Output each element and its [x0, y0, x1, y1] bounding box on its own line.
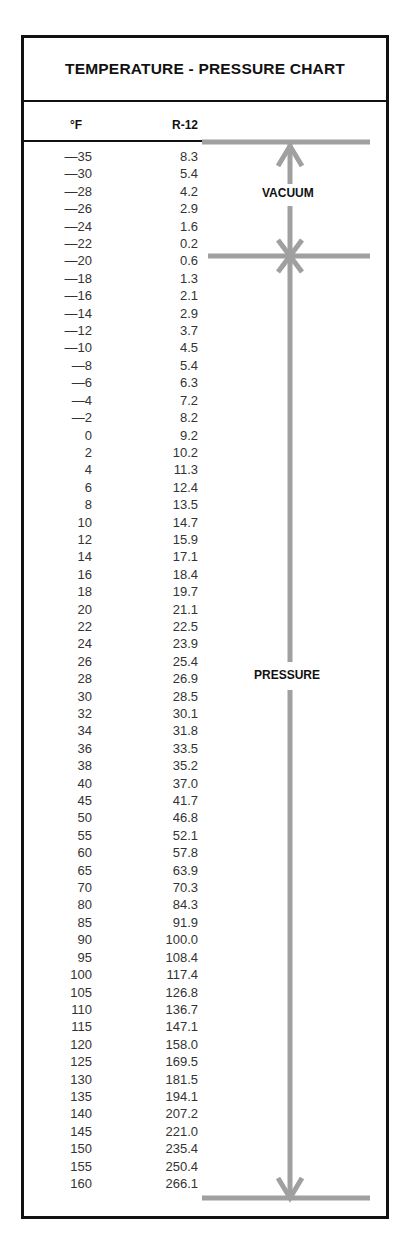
- table-row: 3230.1: [24, 705, 224, 722]
- pressure-cell: 14.7: [173, 514, 198, 531]
- temperature-cell: 90: [78, 931, 92, 948]
- table-row: —262.9: [24, 200, 224, 217]
- temperature-cell: 6: [85, 479, 92, 496]
- pressure-cell: 194.1: [165, 1088, 198, 1105]
- chart-frame: TEMPERATURE - PRESSURE CHART °F R-12 V: [21, 35, 389, 1219]
- table-row: 90100.0: [24, 931, 224, 948]
- table-row: 411.3: [24, 461, 224, 478]
- pressure-cell: 7.2: [180, 392, 198, 409]
- pressure-cell: 33.5: [173, 740, 198, 757]
- temperature-cell: 12: [78, 531, 92, 548]
- pressure-cell: 100.0: [165, 931, 198, 948]
- temperature-cell: 8: [85, 496, 92, 513]
- table-row: 3633.5: [24, 740, 224, 757]
- pressure-cell: 22.5: [173, 618, 198, 635]
- table-row: 8591.9: [24, 914, 224, 931]
- pressure-cell: 108.4: [165, 949, 198, 966]
- temperature-cell: —6: [72, 374, 92, 391]
- table-row: 100117.4: [24, 966, 224, 983]
- pressure-cell: 35.2: [173, 757, 198, 774]
- pressure-cell: 84.3: [173, 896, 198, 913]
- temperature-cell: 4: [85, 461, 92, 478]
- table-row: 3028.5: [24, 688, 224, 705]
- pressure-cell: 126.8: [165, 984, 198, 1001]
- temperature-cell: —26: [65, 200, 92, 217]
- temperature-cell: 10: [78, 514, 92, 531]
- pressure-cell: 30.1: [173, 705, 198, 722]
- pressure-cell: 147.1: [165, 1018, 198, 1035]
- temperature-cell: 80: [78, 896, 92, 913]
- temperature-cell: 140: [70, 1105, 92, 1122]
- pressure-cell: 2.9: [180, 305, 198, 322]
- table-row: 1618.4: [24, 566, 224, 583]
- table-row: 2826.9: [24, 670, 224, 687]
- table-row: —28.2: [24, 409, 224, 426]
- temperature-cell: —10: [65, 339, 92, 356]
- pressure-cell: 25.4: [173, 653, 198, 670]
- table-row: —162.1: [24, 287, 224, 304]
- pressure-cell: 13.5: [173, 496, 198, 513]
- table-row: 135194.1: [24, 1088, 224, 1105]
- pressure-cell: 8.2: [180, 409, 198, 426]
- table-row: —181.3: [24, 270, 224, 287]
- temperature-cell: 30: [78, 688, 92, 705]
- temperature-cell: 28: [78, 670, 92, 687]
- temperature-cell: 150: [70, 1140, 92, 1157]
- table-row: 4037.0: [24, 775, 224, 792]
- pressure-cell: 57.8: [173, 844, 198, 861]
- table-row: 145221.0: [24, 1123, 224, 1140]
- table-row: 5046.8: [24, 809, 224, 826]
- table-row: 125169.5: [24, 1053, 224, 1070]
- table-row: 150235.4: [24, 1140, 224, 1157]
- table-row: —47.2: [24, 392, 224, 409]
- temperature-cell: 100: [70, 966, 92, 983]
- table-row: 6563.9: [24, 862, 224, 879]
- pressure-cell: 11.3: [174, 461, 198, 478]
- temperature-cell: 18: [78, 583, 92, 600]
- data-table: —358.3—305.4—284.2—262.9—241.6—220.2—200…: [24, 148, 224, 1192]
- table-row: 612.4: [24, 479, 224, 496]
- pressure-cell: 21.1: [173, 601, 198, 618]
- temperature-cell: 40: [78, 775, 92, 792]
- temperature-cell: 155: [70, 1158, 92, 1175]
- pressure-cell: 207.2: [165, 1105, 198, 1122]
- temperature-cell: —2: [72, 409, 92, 426]
- pressure-cell: 5.4: [180, 357, 198, 374]
- temperature-cell: 55: [78, 827, 92, 844]
- temperature-cell: 38: [78, 757, 92, 774]
- pressure-cell: 169.5: [165, 1053, 198, 1070]
- table-row: —305.4: [24, 165, 224, 182]
- temperature-cell: 130: [70, 1071, 92, 1088]
- table-row: 2625.4: [24, 653, 224, 670]
- pressure-cell: 117.4: [166, 966, 198, 983]
- table-row: 2222.5: [24, 618, 224, 635]
- temperature-cell: 0: [85, 427, 92, 444]
- table-row: 4541.7: [24, 792, 224, 809]
- pressure-cell: 12.4: [173, 479, 198, 496]
- pressure-cell: 4.2: [180, 183, 198, 200]
- temperature-cell: 70: [78, 879, 92, 896]
- table-row: 7070.3: [24, 879, 224, 896]
- pressure-cell: 0.2: [180, 235, 198, 252]
- temperature-cell: 145: [70, 1123, 92, 1140]
- pressure-cell: 63.9: [173, 862, 198, 879]
- pressure-cell: 181.5: [165, 1071, 198, 1088]
- pressure-cell: 136.7: [165, 1001, 198, 1018]
- table-row: 160266.1: [24, 1175, 224, 1192]
- pressure-cell: 41.7: [173, 792, 198, 809]
- temperature-cell: —30: [65, 165, 92, 182]
- table-row: 09.2: [24, 427, 224, 444]
- temperature-cell: —22: [65, 235, 92, 252]
- table-row: 2423.9: [24, 635, 224, 652]
- pressure-cell: 37.0: [173, 775, 198, 792]
- temperature-cell: 16: [78, 566, 92, 583]
- pressure-cell: 18.4: [173, 566, 198, 583]
- pressure-cell: 6.3: [180, 374, 198, 391]
- pressure-cell: 26.9: [173, 670, 198, 687]
- pressure-cell: 2.1: [180, 287, 198, 304]
- temperature-cell: —35: [65, 148, 92, 165]
- table-row: 130181.5: [24, 1071, 224, 1088]
- pressure-cell: 1.3: [180, 270, 198, 287]
- pressure-cell: 10.2: [173, 444, 198, 461]
- temperature-cell: 60: [78, 844, 92, 861]
